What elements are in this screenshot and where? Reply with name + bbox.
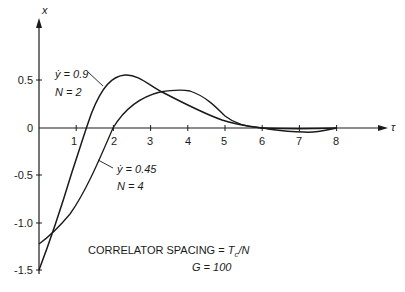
y-axis-arrow-icon [36, 18, 42, 28]
svg-text:3: 3 [147, 135, 153, 147]
series2-label-line2: N = 4 [117, 180, 144, 192]
svg-text:5: 5 [221, 135, 227, 147]
svg-text:0.5: 0.5 [18, 74, 33, 86]
svg-text:-0.5: -0.5 [14, 169, 33, 181]
svg-text:8: 8 [333, 135, 339, 147]
x-axis-label: τ [391, 121, 396, 133]
y-axis-label: x [41, 4, 48, 16]
svg-text:-1.0: -1.0 [14, 217, 33, 229]
series1-label-line1: ẏ = 0.9 [54, 68, 88, 80]
chart: x τ 1 2 3 4 5 6 7 8 0.5 0 -0.5 -1.0 -1.5 [0, 0, 405, 292]
svg-text:6: 6 [259, 135, 265, 147]
svg-text:4: 4 [185, 135, 191, 147]
svg-text:-1.5: -1.5 [14, 264, 33, 276]
series1-leader [88, 72, 103, 86]
series2-label-line1: ẏ = 0.45 [116, 163, 157, 175]
gain-note: G = 100 [192, 261, 232, 273]
x-tick-labels: 1 2 3 4 5 6 7 8 [71, 135, 339, 147]
svg-text:2: 2 [111, 135, 117, 147]
curve-n2 [39, 75, 337, 270]
axes [39, 24, 382, 274]
curve-n4 [39, 90, 337, 244]
series2-leader [98, 160, 113, 168]
y-tick-labels: 0.5 0 -0.5 -1.0 -1.5 [14, 74, 33, 276]
svg-text:7: 7 [296, 135, 302, 147]
svg-text:1: 1 [71, 135, 77, 147]
svg-text:0: 0 [27, 122, 33, 134]
correlator-spacing-note: CORRELATOR SPACING = Tc/N [88, 244, 249, 259]
x-axis-arrow-icon [378, 125, 388, 131]
series1-label-line2: N = 2 [55, 86, 82, 98]
